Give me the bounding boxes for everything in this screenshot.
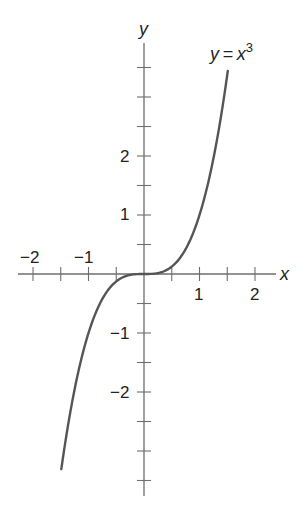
y-axis-label: y: [137, 19, 149, 39]
y-tick-label-neg2: −2: [110, 383, 129, 402]
x-tick-label-neg1: −1: [74, 248, 93, 267]
curve-label: y = x3: [208, 40, 253, 64]
cubic-function-chart: −2 −1 1 2 2 1 −1 −2 x y y = x3: [0, 0, 308, 512]
x-axis-label: x: [279, 264, 290, 284]
x-tick-label-2: 2: [250, 285, 259, 304]
x-tick-label-1: 1: [194, 285, 203, 304]
x-tick-label-neg2: −2: [20, 248, 39, 267]
y-tick-label-2: 2: [120, 147, 129, 166]
curve-label-exponent: 3: [246, 40, 253, 55]
y-tick-label-neg1: −1: [110, 324, 129, 343]
y-tick-label-1: 1: [120, 205, 129, 224]
